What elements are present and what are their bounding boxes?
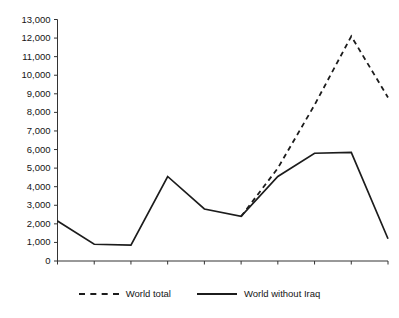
plot-area: 01,0002,0003,0004,0005,0006,0007,0008,00…	[0, 8, 399, 270]
y-tick-label: 0	[45, 255, 50, 266]
y-tick-label: 8,000	[27, 106, 51, 117]
y-tick-label: 2,000	[27, 218, 51, 229]
y-tick-label: 11,000	[22, 51, 50, 62]
x-tick-label: 2004	[267, 268, 288, 270]
chart-legend: World total World without Iraq	[0, 288, 399, 299]
y-tick-label: 1,000	[27, 236, 51, 247]
x-tick-label: 2002	[194, 268, 215, 270]
x-tick-label: 2005	[304, 268, 325, 270]
x-tick-label: 2003	[231, 268, 252, 270]
solid-line-swatch	[197, 293, 237, 295]
x-axis-ticks: 1998199920002001200220032004200520062007	[47, 261, 399, 270]
legend-label-world-total: World total	[126, 288, 171, 299]
x-tick-label: 2000	[120, 268, 141, 270]
x-tick-label: 2007	[377, 268, 398, 270]
x-tick-label: 1999	[84, 268, 105, 270]
y-tick-label: 12,000	[21, 32, 50, 43]
y-tick-label: 7,000	[27, 125, 51, 136]
y-tick-label: 13,000	[21, 14, 50, 25]
y-tick-label: 4,000	[27, 181, 51, 192]
legend-entry-world-total: World total	[79, 288, 171, 299]
x-tick-label: 1998	[47, 268, 68, 270]
x-tick-label: 2006	[341, 268, 362, 270]
y-tick-label: 9,000	[27, 88, 51, 99]
legend-entry-world-without-iraq: World without Iraq	[197, 288, 320, 299]
y-tick-label: 6,000	[27, 144, 51, 155]
series-line-world-without-iraq	[58, 152, 389, 245]
clipped-caption	[0, 0, 399, 7]
line-chart-svg: 01,0002,0003,0004,0005,0006,0007,0008,00…	[0, 8, 399, 270]
y-axis-ticks: 01,0002,0003,0004,0005,0006,0007,0008,00…	[21, 14, 57, 267]
y-tick-label: 10,000	[21, 69, 50, 80]
y-tick-label: 5,000	[27, 162, 51, 173]
y-tick-label: 3,000	[27, 199, 51, 210]
series-line-world-total	[241, 36, 388, 216]
legend-label-world-without-iraq: World without Iraq	[244, 288, 320, 299]
dashed-line-swatch	[79, 293, 119, 295]
chart-figure: 01,0002,0003,0004,0005,0006,0007,0008,00…	[0, 0, 399, 318]
x-tick-label: 2001	[157, 268, 178, 270]
